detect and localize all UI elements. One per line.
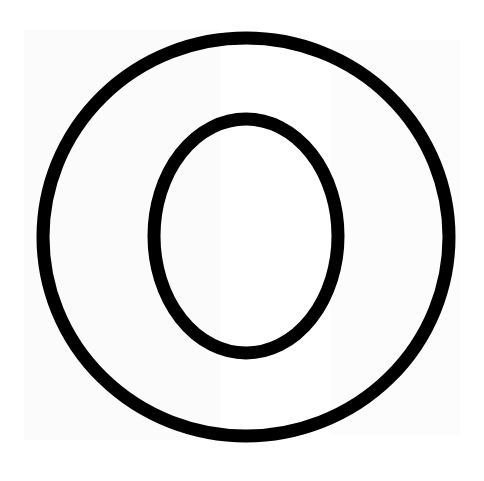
inner-outline	[154, 119, 338, 353]
outer-outline	[43, 38, 449, 436]
letter-o-icon	[0, 0, 484, 481]
letter-o-canvas: O	[0, 0, 484, 481]
